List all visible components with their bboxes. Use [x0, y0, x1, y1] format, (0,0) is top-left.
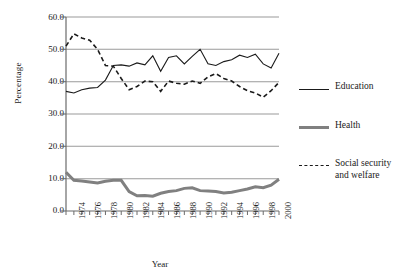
x-tick-label: 1974 — [77, 202, 87, 219]
x-tick-label: 1988 — [188, 202, 198, 219]
x-tick-label: 1980 — [125, 202, 135, 219]
data-series-layer — [66, 34, 279, 196]
thin-solid-line-icon — [299, 83, 329, 95]
x-tick-label: 2000 — [283, 202, 293, 219]
legend-label: Health — [335, 120, 402, 132]
x-tick-label: 1976 — [93, 202, 103, 219]
thick-gray-line-icon — [299, 122, 329, 134]
dashed-line-icon — [299, 160, 329, 172]
legend-label: Education — [335, 81, 402, 93]
y-axis-ticks — [61, 17, 66, 211]
x-tick-label: 1998 — [267, 202, 277, 219]
x-tick-label: 1984 — [156, 202, 166, 219]
legend-label-line1: Social security — [335, 158, 391, 168]
legend-label-line2: and welfare — [335, 170, 380, 180]
x-tick-label: 1990 — [204, 202, 214, 219]
series-line-health — [66, 172, 279, 196]
x-tick-label: 1986 — [172, 202, 182, 219]
series-line-education — [66, 49, 279, 93]
x-tick-label: 1978 — [109, 202, 119, 219]
chart-figure: Percentage Year 60.0 50.0 40.0 30.0 20.0… — [0, 0, 402, 279]
x-tick-label: 1996 — [251, 202, 261, 219]
chart-legend: Education Health Social security and wel… — [299, 0, 402, 279]
x-tick-label: 1982 — [141, 202, 151, 219]
x-tick-label: 1992 — [219, 202, 229, 219]
gridlines — [66, 17, 279, 179]
x-tick-label: 1994 — [235, 202, 245, 219]
